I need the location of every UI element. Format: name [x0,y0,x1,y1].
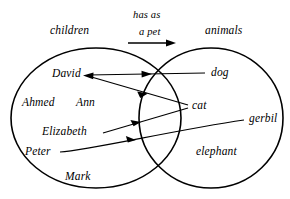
mapping-david-cat [88,76,188,105]
member-ann: Ann [76,97,95,109]
left-set-title: children [50,25,89,37]
member-dog: dog [211,67,229,79]
member-cat: cat [192,100,207,112]
relation-label-line2: a pet [139,27,160,38]
right-set-title: animals [205,25,242,37]
member-elephant: elephant [196,146,237,158]
mapping-elizabeth-cat [103,108,188,133]
relation-arrow [128,40,176,47]
member-mark: Mark [65,171,91,183]
member-ahmed: Ahmed [22,97,55,109]
member-elizabeth: Elizabeth [42,126,87,138]
mapping-david-dog [83,71,205,80]
member-peter: Peter [25,146,51,158]
relation-diagram: children animals has as a pet David Ahme… [0,0,290,199]
relation-label-line1: has as [133,10,160,21]
member-gerbil: gerbil [249,113,277,125]
member-david: David [52,68,81,80]
